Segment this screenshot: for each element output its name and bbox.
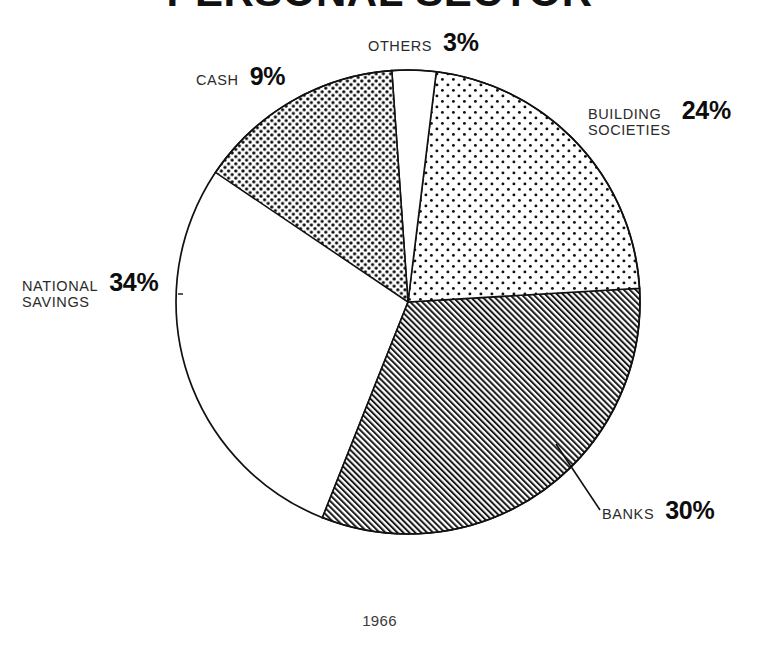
- label-cash: CASH 9%: [196, 62, 285, 90]
- label-national-savings-line1: NATIONAL: [22, 278, 98, 294]
- label-others: OTHERS 3%: [368, 28, 479, 56]
- label-banks-category: BANKS: [602, 506, 654, 522]
- label-national-savings-value: 34%: [109, 268, 158, 296]
- label-cash-value: 9%: [250, 62, 286, 90]
- label-cash-category: CASH: [196, 72, 239, 88]
- label-building-societies-line2: SOCIETIES: [588, 122, 671, 138]
- label-building-societies-line1: BUILDING: [588, 106, 671, 122]
- label-building-societies: BUILDING SOCIETIES 24%: [588, 96, 731, 138]
- label-national-savings: NATIONAL SAVINGS 34%: [22, 268, 158, 310]
- chart-canvas: PERSONAL SECTOR: [0, 0, 759, 664]
- label-banks: BANKS 30%: [602, 496, 714, 524]
- label-national-savings-category: NATIONAL SAVINGS: [22, 278, 98, 310]
- label-building-societies-value: 24%: [682, 96, 731, 124]
- label-banks-value: 30%: [665, 496, 714, 524]
- label-national-savings-line2: SAVINGS: [22, 294, 98, 310]
- label-building-societies-category: BUILDING SOCIETIES: [588, 106, 671, 138]
- slice-cash[interactable]: [215, 71, 408, 302]
- label-others-category: OTHERS: [368, 38, 432, 54]
- chart-year-label: 1966: [0, 612, 759, 629]
- label-others-value: 3%: [443, 28, 479, 56]
